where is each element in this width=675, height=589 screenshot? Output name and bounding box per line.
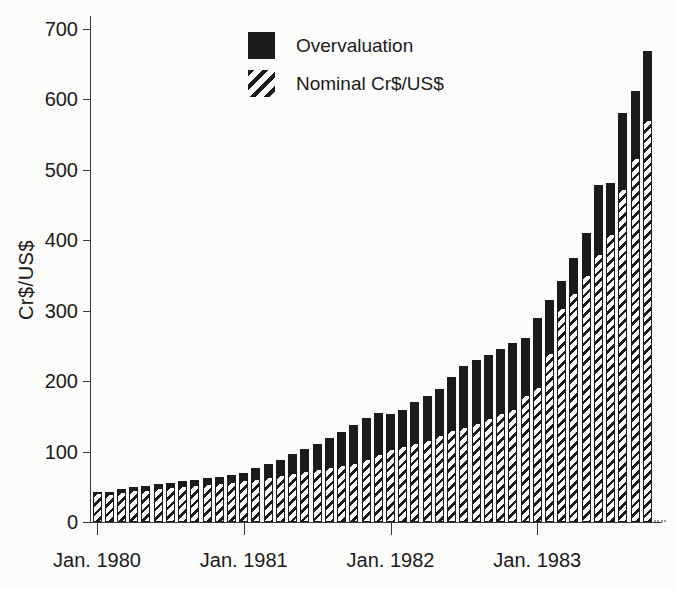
overvaluation-segment [436,390,443,436]
nominal-segment [167,488,174,521]
stacked-bar-jun-1980 [154,484,163,522]
nominal-segment [497,414,504,521]
stacked-bar-feb-1982 [398,410,407,522]
nominal-segment [619,190,626,521]
stacked-bar-jun-1981 [300,449,309,522]
legend: Overvaluation Nominal Cr$/US$ [248,32,444,108]
nominal-segment [130,491,137,521]
y-axis-tick [83,99,90,100]
stacked-bar-sep-1980 [190,480,199,522]
overvaluation-segment [277,461,284,476]
overvaluation-segment [363,419,370,461]
stacked-bar-dec-1980 [227,475,236,522]
overvaluation-segment [411,403,418,444]
nominal-segment [485,419,492,521]
x-tick-label: Jan. 1982 [336,549,446,571]
stacked-bar-mar-1982 [410,402,419,522]
stacked-bar-jan-1982 [386,414,395,522]
y-tick-label: 400 [30,229,78,251]
nominal-segment [558,309,565,521]
stacked-bar-nov-1980 [215,477,224,522]
nominal-segment [375,455,382,521]
x-tick-label: Jan. 1980 [42,549,152,571]
overvaluation-segment [644,52,651,121]
nominal-segment [522,396,529,521]
stacked-bar-oct-1983 [643,51,652,522]
stacked-bar-may-1981 [288,454,297,522]
overvaluation-segment [546,301,553,354]
x-axis-tick [391,523,392,535]
overvaluation-segment [522,339,529,396]
overvaluation-segment [619,114,626,190]
exchange-rate-chart: Cr$/US$ Overvaluation Nominal Cr$/US$ 01… [0,0,675,589]
y-tick-label: 300 [30,300,78,322]
nominal-segment [363,460,370,521]
y-tick-label: 100 [30,441,78,463]
nominal-segment [399,447,406,521]
y-axis-tick [83,522,90,523]
nominal-segment [252,480,259,521]
y-tick-label: 0 [30,511,78,533]
overvaluation-segment [399,411,406,447]
stacked-bar-mar-1980 [117,489,126,522]
stacked-bar-nov-1981 [362,418,371,522]
stacked-bar-jun-1983 [594,185,603,522]
stacked-bar-sep-1982 [484,355,493,522]
overvaluation-segment [289,455,296,473]
overvaluation-segment [375,414,382,456]
y-axis-tick [83,29,90,30]
overvaluation-segment [460,367,467,428]
overvaluation-segment [534,319,541,387]
overvaluation-segment [583,234,590,276]
stacked-bar-jul-1983 [606,183,615,522]
overvaluation-segment [228,476,235,483]
overvaluation-segment [595,186,602,255]
nominal-segment [411,444,418,521]
nominal-segment [473,424,480,521]
x-axis-line [90,522,662,523]
overvaluation-segment [558,282,565,309]
x-tick-label: Jan. 1981 [189,549,299,571]
stacked-bar-may-1983 [582,233,591,522]
stacked-bar-aug-1980 [178,481,187,522]
nominal-segment [534,388,541,521]
nominal-segment [326,468,333,521]
stacked-bar-jul-1981 [313,444,322,522]
stacked-bar-aug-1982 [472,360,481,522]
legend-item-nominal: Nominal Cr$/US$ [248,70,444,97]
overvaluation-segment [338,433,345,466]
nominal-segment [338,466,345,521]
overvaluation-segment [424,397,431,441]
y-axis-tick [83,240,90,241]
stacked-bar-oct-1982 [496,349,505,522]
stacked-bar-dec-1982 [521,338,530,522]
nominal-segment [228,483,235,521]
nominal-segment [142,491,149,521]
stacked-bar-aug-1981 [325,438,334,522]
y-tick-label: 600 [30,88,78,110]
y-axis-line [90,16,91,523]
legend-item-overvaluation: Overvaluation [248,32,444,59]
y-axis-tick [83,311,90,312]
overvaluation-segment [265,465,272,478]
nominal-segment [632,159,639,521]
nominal-segment [118,493,125,521]
overvaluation-segment [240,474,247,482]
overvaluation-segment [497,350,504,414]
stacked-bar-apr-1982 [423,396,432,522]
stacked-bar-may-1980 [141,486,150,522]
nominal-segment [350,464,357,521]
overvaluation-segment [632,92,639,160]
nominal-segment [546,354,553,521]
nominal-segment [277,476,284,521]
stacked-bar-jul-1982 [459,366,468,522]
x-axis-tick [537,523,538,535]
nominal-segment [179,487,186,521]
stacked-bar-nov-1982 [508,343,517,522]
nominal-segment [301,472,308,521]
y-axis-tick [83,381,90,382]
y-axis-tick [83,170,90,171]
y-tick-label: 500 [30,159,78,181]
nominal-segment [314,470,321,521]
legend-label-nominal: Nominal Cr$/US$ [296,73,444,95]
